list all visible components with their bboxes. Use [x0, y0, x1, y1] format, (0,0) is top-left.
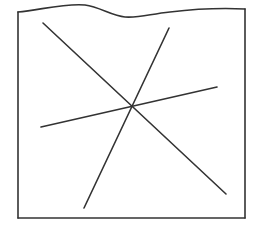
diagram-canvas	[0, 0, 262, 244]
diagram-svg	[0, 0, 262, 244]
diagonal-line-3	[41, 87, 217, 127]
frame-wavy-top-edge	[18, 5, 245, 18]
diagonal-line-2	[84, 28, 169, 208]
diagonal-line-1	[43, 23, 226, 194]
